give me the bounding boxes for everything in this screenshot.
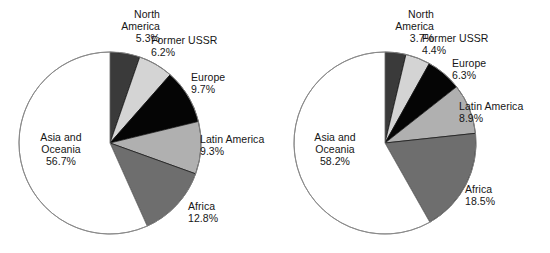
- pie-slice-label-percent: 9.3%: [200, 145, 278, 157]
- pie-slice-label-name: Former USSR: [151, 34, 241, 46]
- pie-slice-label-name-line2: America: [88, 20, 160, 32]
- pie-slice-label: Latin America9.3%: [200, 133, 278, 157]
- pie-slice-label-percent: 12.8%: [188, 212, 248, 224]
- pie-slice-label-percent: 18.5%: [465, 195, 527, 207]
- pie-slice-label-name-line2: America: [362, 20, 434, 32]
- pie-slice-label-name: Africa: [465, 183, 527, 195]
- pie-slice-label: Asia andOceania58.2%: [298, 131, 372, 168]
- pie-slice-label-percent: 8.9%: [459, 112, 543, 124]
- pie-slice-label-name: Africa: [188, 200, 248, 212]
- pie-slice-label-name-line2: Oceania: [24, 143, 98, 155]
- pie-slice-label-name: North: [362, 8, 434, 20]
- pie-slice-label-name: Asia and: [298, 131, 372, 143]
- pie-slice-label-percent: 56.7%: [24, 155, 98, 167]
- pie-slice-label-percent: 5.3%: [88, 32, 160, 44]
- pie-slice-label: Europe9.7%: [191, 71, 261, 95]
- pie-slice-label-name: Latin America: [200, 133, 278, 145]
- pie-chart-figure: NorthAmerica5.3%Former USSR6.2%Europe9.7…: [0, 0, 550, 253]
- pie-slice-label: NorthAmerica5.3%: [88, 8, 160, 45]
- pie-slice-label-name: Former USSR: [422, 32, 512, 44]
- pie-slice-label-percent: 9.7%: [191, 83, 261, 95]
- pie-slice-label-percent: 6.2%: [151, 46, 241, 58]
- pie-slice-label: Africa12.8%: [188, 200, 248, 224]
- pie-slice-label: Africa18.5%: [465, 183, 527, 207]
- pie-slice-label: Latin America8.9%: [459, 100, 543, 124]
- pie-chart-right: NorthAmerica3.7%Former USSR4.4%Europe6.3…: [275, 0, 550, 253]
- pie-slice-label-name-line2: Oceania: [298, 143, 372, 155]
- pie-slice-label: Former USSR4.4%: [422, 32, 512, 56]
- pie-slice-label: Europe6.3%: [452, 57, 522, 81]
- pie-slice-label-name: Europe: [191, 71, 261, 83]
- pie-slice-label-percent: 4.4%: [422, 44, 512, 56]
- pie-slice-label-name: North: [88, 8, 160, 20]
- pie-chart-left: NorthAmerica5.3%Former USSR6.2%Europe9.7…: [0, 0, 275, 253]
- pie-slice-label: Former USSR6.2%: [151, 34, 241, 58]
- pie-slice-label-percent: 58.2%: [298, 155, 372, 167]
- pie-slice-label-name: Europe: [452, 57, 522, 69]
- pie-slice-label-name: Latin America: [459, 100, 543, 112]
- pie-slice-label-name: Asia and: [24, 131, 98, 143]
- pie-slice-label-percent: 6.3%: [452, 69, 522, 81]
- pie-slice-label: Asia andOceania56.7%: [24, 131, 98, 168]
